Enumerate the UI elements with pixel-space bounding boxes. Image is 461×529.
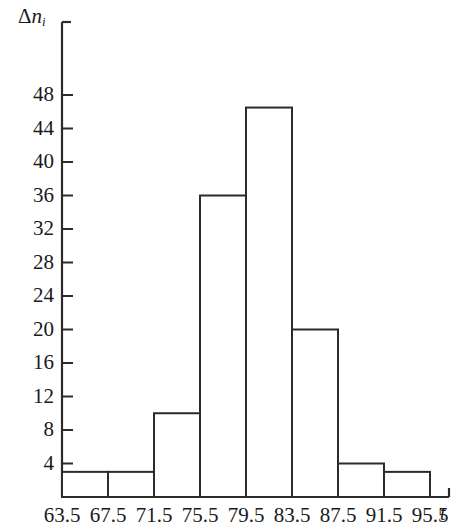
y-tick-label: 20: [8, 319, 54, 340]
y-tick-label: 24: [8, 285, 54, 306]
histogram-bar: [154, 413, 200, 497]
bars: [62, 108, 430, 497]
histogram-bar: [292, 330, 338, 498]
y-tick-label: 8: [8, 419, 54, 440]
y-tick-label: 4: [8, 453, 54, 474]
y-tick-label: 16: [8, 352, 54, 373]
y-axis-variable: n: [32, 4, 43, 28]
plot-area: [0, 0, 461, 529]
histogram-bar: [108, 472, 154, 497]
histogram-bar: [338, 464, 384, 498]
y-tick-label: 36: [8, 185, 54, 206]
y-tick-label: 40: [8, 151, 54, 172]
y-tick-label: 48: [8, 84, 54, 105]
histogram-bar: [384, 472, 430, 497]
x-tick-label: 95.5: [400, 505, 460, 526]
histogram-bar: [246, 108, 292, 497]
histogram-bar: [200, 196, 246, 498]
histogram-bar: [62, 472, 108, 497]
y-tick-label: 32: [8, 218, 54, 239]
histogram-chart: Δni t 4812162024283236404448 63.567.571.…: [0, 0, 461, 529]
y-tick-label: 44: [8, 118, 54, 139]
delta-symbol: Δ: [18, 4, 32, 28]
y-axis-subscript: i: [42, 14, 46, 29]
y-axis-title: Δni: [18, 6, 46, 28]
y-tick-label: 28: [8, 252, 54, 273]
y-tick-label: 12: [8, 386, 54, 407]
